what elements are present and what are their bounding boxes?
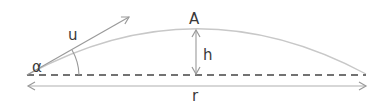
angle-label: α [32, 58, 42, 76]
projectile-diagram: u α A h r [0, 0, 390, 104]
velocity-label: u [68, 26, 78, 44]
apex-label: A [189, 10, 200, 28]
range-label: r [192, 87, 199, 104]
height-label: h [203, 46, 213, 64]
